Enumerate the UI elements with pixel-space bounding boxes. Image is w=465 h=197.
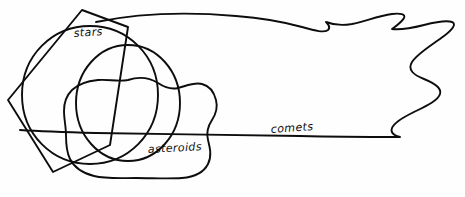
square-outline: [8, 10, 128, 172]
set-diagram: stars asteroids comets: [0, 0, 465, 197]
label-comets: comets: [270, 120, 314, 136]
label-stars: stars: [73, 25, 103, 40]
label-asteroids: asteroids: [147, 140, 202, 156]
diagram-canvas: stars asteroids comets: [0, 0, 465, 197]
